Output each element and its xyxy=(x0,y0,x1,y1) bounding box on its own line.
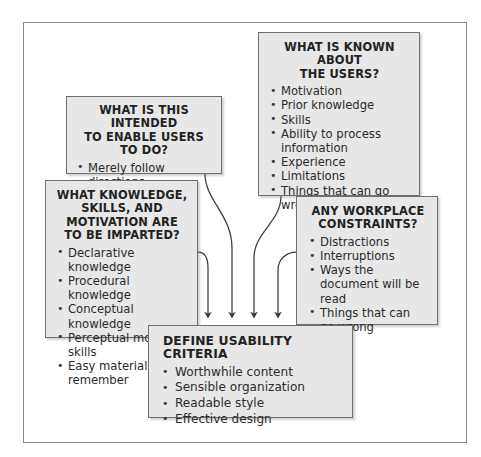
list-item: Readable style xyxy=(161,396,343,412)
list-item: Skills xyxy=(269,113,410,127)
node-knowledge[interactable]: WHAT KNOWLEDGE, SKILLS, AND MOTIVATION A… xyxy=(45,180,198,338)
list-item: Sensible organization xyxy=(161,380,343,396)
node-users-title-line-2: THE USERS? xyxy=(269,68,410,81)
node-intended-title-line-1: WHAT IS THIS INTENDED xyxy=(76,104,212,131)
list-item: Effective design xyxy=(161,412,343,428)
list-item: Limitations xyxy=(269,169,410,183)
list-item: Worthwhile content xyxy=(161,365,343,381)
node-define-usability-criteria[interactable]: DEFINE USABILITY CRITERIA Worthwhile con… xyxy=(148,325,353,418)
node-define-list: Worthwhile content Sensible organization… xyxy=(161,365,343,427)
node-knowledge-title-line-3: MOTIVATION ARE xyxy=(56,216,188,229)
node-knowledge-title-line-1: WHAT KNOWLEDGE, xyxy=(56,189,188,202)
list-item: Declarative knowledge xyxy=(56,246,188,274)
node-users[interactable]: WHAT IS KNOWN ABOUT THE USERS? Motivatio… xyxy=(258,32,420,196)
node-define-title: DEFINE USABILITY CRITERIA xyxy=(161,335,343,362)
node-knowledge-title-line-2: SKILLS, AND xyxy=(56,202,188,215)
node-workplace-list: Distractions Interruptions Ways the docu… xyxy=(308,235,428,334)
node-knowledge-title-line-4: TO BE IMPARTED? xyxy=(56,229,188,242)
node-workplace-title-line-2: CONSTRAINTS? xyxy=(308,218,428,231)
list-item: Motivation xyxy=(269,84,410,98)
node-users-title-line-1: WHAT IS KNOWN ABOUT xyxy=(269,41,410,68)
diagram-root: WHAT IS THIS INTENDED TO ENABLE USERS TO… xyxy=(0,0,481,457)
node-workplace[interactable]: ANY WORKPLACE CONSTRAINTS? Distractions … xyxy=(296,196,438,325)
node-intended[interactable]: WHAT IS THIS INTENDED TO ENABLE USERS TO… xyxy=(66,96,222,174)
list-item: Experience xyxy=(269,155,410,169)
node-workplace-title-line-1: ANY WORKPLACE xyxy=(308,205,428,218)
list-item: Ability to process information xyxy=(269,127,410,155)
list-item: Distractions xyxy=(308,235,428,249)
node-intended-title-line-2: TO ENABLE USERS TO DO? xyxy=(76,131,212,158)
node-users-list: Motivation Prior knowledge Skills Abilit… xyxy=(269,84,410,212)
list-item: Ways the document will be read xyxy=(308,263,428,306)
list-item: Interruptions xyxy=(308,249,428,263)
list-item: Procedural knowledge xyxy=(56,274,188,302)
list-item: Prior knowledge xyxy=(269,98,410,112)
